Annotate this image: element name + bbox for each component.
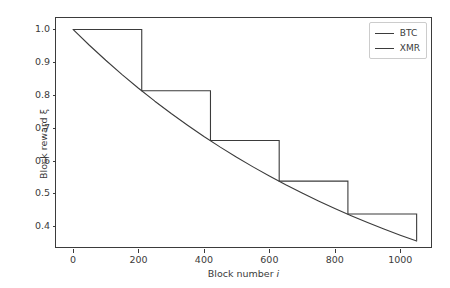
series-line-xmr [73, 29, 417, 241]
y-tick-mark [53, 95, 57, 96]
chart-legend: BTC XMR [369, 22, 427, 59]
legend-label-btc: BTC [400, 29, 417, 38]
plot-area: 0.40.50.60.70.80.91.0 02004006008001000 … [55, 17, 432, 248]
y-axis-title: Block reward ξ [38, 109, 49, 179]
x-tick-mark [400, 249, 401, 253]
x-tick-mark [204, 249, 205, 253]
x-tick-mark [335, 249, 336, 253]
x-tick-label: 400 [195, 255, 213, 265]
y-tick-label: 0.6 [35, 156, 50, 166]
x-tick-label: 200 [129, 255, 147, 265]
y-tick-mark [53, 193, 57, 194]
legend-swatch-btc [375, 33, 394, 34]
y-tick-label: 1.0 [35, 25, 50, 35]
x-axis-title-text: Block number i [208, 268, 279, 279]
y-tick-mark [53, 29, 57, 30]
y-tick-mark [53, 226, 57, 227]
x-axis-title-variable: i [277, 268, 280, 279]
x-tick-mark [138, 249, 139, 253]
legend-label-xmr: XMR [400, 44, 420, 53]
x-tick-label: 1000 [388, 255, 412, 265]
x-tick-mark [73, 249, 74, 253]
legend-swatch-xmr [375, 48, 394, 49]
x-tick-label: 600 [260, 255, 278, 265]
series-line-btc [73, 29, 417, 240]
x-axis-title: Block number i [55, 268, 432, 279]
y-tick-mark [53, 161, 57, 162]
x-tick-label: 0 [70, 255, 76, 265]
legend-item-btc: BTC [375, 27, 420, 39]
x-tick-mark [269, 249, 270, 253]
y-tick-label: 0.4 [35, 221, 50, 231]
y-tick-label: 0.5 [35, 189, 50, 199]
legend-item-xmr: XMR [375, 42, 420, 54]
chart-figure: Block reward ξ 0.40.50.60.70.80.91.0 020… [0, 0, 450, 288]
x-tick-label: 800 [326, 255, 344, 265]
y-tick-mark [53, 62, 57, 63]
y-tick-mark [53, 128, 57, 129]
y-tick-label: 0.7 [35, 123, 50, 133]
y-tick-label: 0.8 [35, 90, 50, 100]
y-tick-label: 0.9 [35, 57, 50, 67]
